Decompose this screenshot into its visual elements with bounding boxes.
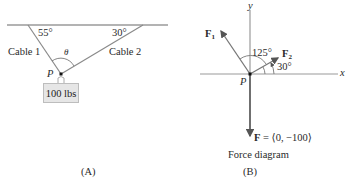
theta-label: θ [64, 48, 68, 57]
x-axis-label: x [340, 68, 345, 79]
panel-a-caption: (A) [81, 167, 96, 178]
angle-55-label: 55° [38, 28, 53, 39]
point-p-marker-b [249, 73, 252, 76]
point-p-marker [60, 73, 63, 76]
arc-30 [263, 67, 265, 74]
point-p-label: P [47, 69, 53, 80]
arc-30-outer [271, 63, 274, 74]
point-p-label-b: P [240, 77, 246, 88]
angle-30-label-b: 30° [277, 62, 292, 73]
force-vector-label: F = ⟨0, −100⟩ [254, 133, 312, 144]
angle-30-label: 30° [112, 28, 127, 39]
weight-label: 100 lbs [46, 88, 77, 99]
cable-2-label: Cable 2 [109, 47, 141, 58]
f2-label: F2 [282, 49, 292, 61]
force-diagram-caption: Force diagram [228, 150, 289, 161]
angle-125-label: 125° [252, 48, 272, 59]
y-axis-label: y [248, 1, 253, 12]
panel-b-drawing [200, 10, 338, 136]
panel-b-caption: (B) [243, 167, 257, 178]
cable-1-label: Cable 1 [8, 47, 40, 58]
vector-f1 [221, 31, 250, 74]
f1-label: F1 [205, 29, 215, 41]
weight-box: 100 lbs [43, 83, 79, 103]
